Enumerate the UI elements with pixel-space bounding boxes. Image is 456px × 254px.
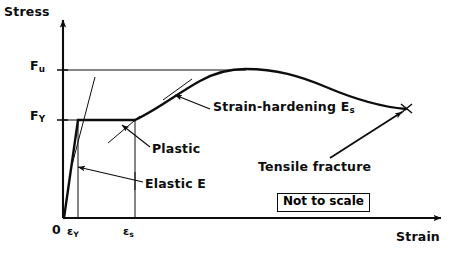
not-to-scale-notice: Not to scale xyxy=(277,193,370,212)
stress-strain-figure: Stress Strain Fu FY 0 εY εs Plastic Elas… xyxy=(0,0,456,254)
eps-s-subscript: s xyxy=(129,230,134,239)
y-axis-title: Stress xyxy=(4,4,50,19)
x-axis-title: Strain xyxy=(396,229,440,244)
x-tick-label-yield-strain: εY xyxy=(67,225,79,238)
x-tick-label-hardening-strain: εs xyxy=(123,225,134,238)
fu-subscript: u xyxy=(39,64,45,74)
elastic-leader xyxy=(78,167,143,182)
eps-y-subscript: Y xyxy=(73,230,79,239)
annotation-plastic: Plastic xyxy=(152,141,200,156)
y-tick-label-ultimate: Fu xyxy=(30,58,45,73)
annotation-strain-hardening: Strain-hardening Es xyxy=(213,99,355,114)
annotation-elastic: Elastic E xyxy=(145,176,206,191)
y-tick-label-yield: FY xyxy=(30,108,45,123)
fu-base: F xyxy=(30,58,39,73)
fy-base: F xyxy=(30,108,39,123)
fy-subscript: Y xyxy=(39,114,46,124)
strain-hardening-leader xyxy=(175,95,210,109)
strain-hardening-text: Strain-hardening E xyxy=(213,99,349,114)
origin-label: 0 xyxy=(52,222,61,237)
tensile-fracture-leader xyxy=(330,112,402,158)
strain-hardening-subscript: s xyxy=(349,105,354,115)
annotation-tensile-fracture: Tensile fracture xyxy=(258,159,371,174)
elastic-segment xyxy=(64,120,78,218)
plastic-leader xyxy=(122,125,150,147)
stress-strain-plot xyxy=(0,0,456,254)
